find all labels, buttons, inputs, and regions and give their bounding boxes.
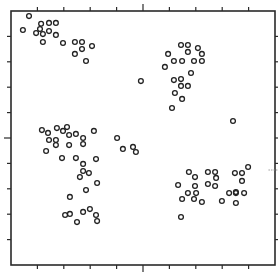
data-point-marker bbox=[172, 78, 177, 83]
data-point-marker bbox=[46, 131, 51, 136]
data-point-marker bbox=[193, 175, 198, 180]
data-point-marker bbox=[81, 210, 86, 215]
data-point-marker bbox=[60, 156, 65, 161]
data-point-marker bbox=[92, 129, 97, 134]
data-point-marker bbox=[47, 29, 52, 34]
data-point-marker bbox=[81, 169, 86, 174]
data-point-marker bbox=[40, 128, 45, 133]
data-point-marker bbox=[213, 170, 218, 175]
data-point-marker bbox=[39, 21, 44, 26]
data-point-marker bbox=[227, 191, 232, 196]
data-point-marker bbox=[121, 147, 126, 152]
data-point-marker bbox=[81, 142, 86, 147]
data-point-marker bbox=[193, 184, 198, 189]
data-point-marker bbox=[134, 150, 139, 155]
data-point-marker bbox=[139, 79, 144, 84]
data-point-marker bbox=[84, 188, 89, 193]
data-point-marker bbox=[74, 132, 79, 137]
data-point-marker bbox=[54, 21, 59, 26]
data-point-marker bbox=[187, 170, 192, 175]
data-point-marker bbox=[192, 59, 197, 64]
data-point-marker bbox=[84, 59, 89, 64]
data-point-marker bbox=[206, 182, 211, 187]
data-point-marker bbox=[173, 91, 178, 96]
data-points bbox=[21, 14, 251, 225]
data-point-marker bbox=[78, 175, 83, 180]
data-point-marker bbox=[67, 143, 72, 148]
data-point-marker bbox=[65, 125, 70, 130]
data-point-marker bbox=[38, 27, 43, 32]
data-point-marker bbox=[186, 84, 191, 89]
data-point-marker bbox=[170, 106, 175, 111]
data-point-marker bbox=[81, 162, 86, 167]
data-point-marker bbox=[95, 181, 100, 186]
data-point-marker bbox=[172, 59, 177, 64]
data-point-marker bbox=[180, 97, 185, 102]
data-point-marker bbox=[194, 191, 199, 196]
data-point-marker bbox=[81, 136, 86, 141]
data-point-marker bbox=[94, 157, 99, 162]
data-point-marker bbox=[54, 33, 59, 38]
data-point-marker bbox=[115, 136, 120, 141]
data-point-marker bbox=[75, 220, 80, 225]
data-point-marker bbox=[180, 59, 185, 64]
data-point-marker bbox=[131, 145, 136, 150]
plot-canvas bbox=[0, 0, 278, 280]
data-point-marker bbox=[95, 219, 100, 224]
data-point-marker bbox=[220, 199, 225, 204]
data-point-marker bbox=[163, 65, 168, 70]
data-point-marker bbox=[68, 195, 73, 200]
data-point-marker bbox=[189, 71, 194, 76]
data-point-marker bbox=[231, 119, 236, 124]
data-point-marker bbox=[88, 207, 93, 212]
data-point-marker bbox=[206, 170, 211, 175]
data-point-marker bbox=[44, 149, 49, 154]
data-point-marker bbox=[179, 77, 184, 82]
data-point-marker bbox=[240, 179, 245, 184]
data-point-marker bbox=[41, 40, 46, 45]
data-point-marker bbox=[47, 138, 52, 143]
data-point-marker bbox=[179, 43, 184, 48]
data-point-marker bbox=[55, 126, 60, 131]
data-point-marker bbox=[61, 129, 66, 134]
data-point-marker bbox=[186, 43, 191, 48]
data-point-marker bbox=[74, 156, 79, 161]
data-point-marker bbox=[179, 215, 184, 220]
data-point-marker bbox=[214, 176, 219, 181]
data-point-marker bbox=[200, 52, 205, 57]
data-point-marker bbox=[213, 184, 218, 189]
data-point-marker bbox=[176, 183, 181, 188]
data-point-marker bbox=[63, 213, 68, 218]
data-point-marker bbox=[94, 213, 99, 218]
data-point-marker bbox=[61, 41, 66, 46]
data-point-marker bbox=[80, 47, 85, 52]
data-point-marker bbox=[73, 40, 78, 45]
data-point-marker bbox=[87, 171, 92, 176]
data-point-marker bbox=[200, 59, 205, 64]
data-point-marker bbox=[68, 212, 73, 217]
data-point-marker bbox=[233, 171, 238, 176]
data-point-marker bbox=[242, 191, 247, 196]
data-point-marker bbox=[80, 40, 85, 45]
data-point-marker bbox=[34, 31, 39, 36]
data-point-marker bbox=[166, 52, 171, 57]
data-point-marker bbox=[21, 28, 26, 33]
data-point-marker bbox=[67, 133, 72, 138]
data-point-marker bbox=[200, 200, 205, 205]
data-point-marker bbox=[90, 44, 95, 49]
data-point-marker bbox=[240, 171, 245, 176]
data-point-marker bbox=[234, 201, 239, 206]
data-point-marker bbox=[179, 84, 184, 89]
data-point-marker bbox=[196, 46, 201, 51]
axes-frame bbox=[4, 4, 278, 272]
data-point-marker bbox=[41, 32, 46, 37]
data-point-marker bbox=[54, 143, 59, 148]
data-point-marker bbox=[186, 50, 191, 55]
data-point-marker bbox=[246, 165, 251, 170]
scatter-plot bbox=[0, 0, 278, 280]
data-point-marker bbox=[180, 197, 185, 202]
data-point-marker bbox=[47, 21, 52, 26]
data-point-marker bbox=[186, 191, 191, 196]
data-point-marker bbox=[27, 14, 32, 19]
data-point-marker bbox=[192, 197, 197, 202]
